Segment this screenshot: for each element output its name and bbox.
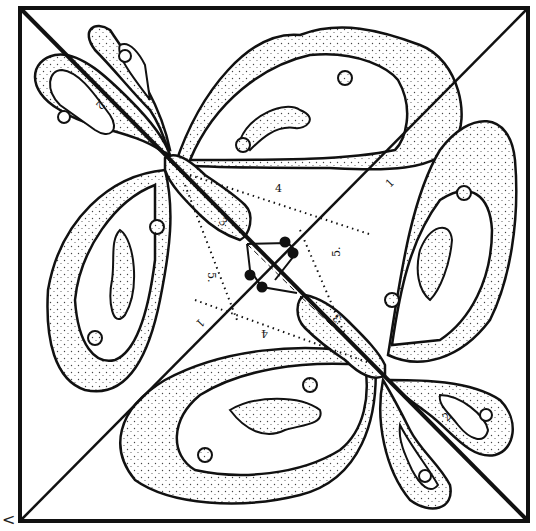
piece-label: 5. — [205, 272, 218, 283]
quilt-block-diagram: 1 1 2 2 3 3 4 4 5. 5. — [0, 0, 536, 531]
piece-label: 5. — [330, 247, 343, 258]
dot — [385, 293, 399, 307]
dot — [480, 409, 492, 421]
piece-label: 4 — [275, 182, 282, 195]
dot — [119, 50, 131, 62]
dot — [236, 138, 250, 152]
dot — [303, 378, 317, 392]
piece-label: 4 — [261, 327, 268, 340]
dot — [150, 220, 164, 234]
dot — [457, 186, 471, 200]
dot — [338, 71, 352, 85]
dot — [419, 470, 431, 482]
corner-mark: < — [2, 510, 15, 529]
dot — [198, 448, 212, 462]
dot — [88, 331, 102, 345]
dot — [58, 111, 70, 123]
